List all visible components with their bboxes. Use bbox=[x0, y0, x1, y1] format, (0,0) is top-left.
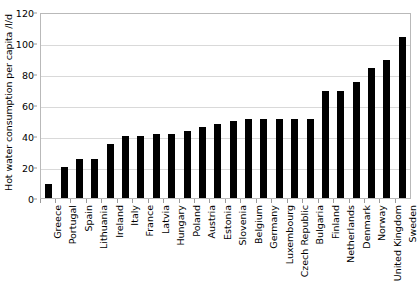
bar bbox=[260, 119, 267, 198]
bar bbox=[337, 91, 344, 198]
x-axis-label-slot: Norway bbox=[365, 203, 380, 285]
x-axis-label-slot: Denmark bbox=[349, 203, 364, 285]
x-axis-label-slot: Belgium bbox=[241, 203, 256, 285]
x-axis-label-slot: Sweden bbox=[395, 203, 410, 285]
x-axis-label-slot: Bulgaria bbox=[303, 203, 318, 285]
bar-slot bbox=[41, 14, 56, 198]
y-axis-tick-label: 100 bbox=[16, 39, 34, 50]
x-axis-label-slot: Portugal bbox=[55, 203, 70, 285]
bar-slot bbox=[302, 14, 317, 198]
bar-slot bbox=[164, 14, 179, 198]
bar bbox=[307, 119, 314, 198]
x-axis-label-slot: Spain bbox=[71, 203, 86, 285]
plot-area bbox=[40, 13, 411, 199]
bar-slot bbox=[87, 14, 102, 198]
bar-slot bbox=[133, 14, 148, 198]
bar-slot bbox=[364, 14, 379, 198]
x-axis-label-slot: Austria bbox=[195, 203, 210, 285]
x-axis-label-slot: Latvia bbox=[148, 203, 163, 285]
bar bbox=[214, 124, 221, 198]
y-axis-tick-label: 120 bbox=[16, 8, 34, 19]
x-axis-label-slot: Netherlands bbox=[334, 203, 349, 285]
bar bbox=[153, 134, 160, 198]
x-axis-label-slot: United Kingdom bbox=[380, 203, 395, 285]
bar bbox=[399, 37, 406, 198]
y-axis-tick-mark bbox=[34, 75, 37, 76]
bar bbox=[322, 91, 329, 198]
y-axis-tick-label: 60 bbox=[22, 101, 34, 112]
bar-slot bbox=[241, 14, 256, 198]
x-axis-tick-label: Sweden bbox=[407, 205, 418, 243]
y-axis-tick-mark bbox=[34, 137, 37, 138]
bar-slot bbox=[118, 14, 133, 198]
y-axis-tick-mark bbox=[34, 168, 37, 169]
x-axis-label-slot: France bbox=[133, 203, 148, 285]
y-axis-tick-label: 20 bbox=[22, 163, 34, 174]
bar bbox=[184, 131, 191, 198]
bar-slot bbox=[195, 14, 210, 198]
bar bbox=[91, 159, 98, 198]
x-axis-label-slot: Germany bbox=[256, 203, 271, 285]
bar bbox=[61, 167, 68, 198]
bar-slot bbox=[179, 14, 194, 198]
y-axis-tick-label: 40 bbox=[22, 132, 34, 143]
y-axis-tick-labels: 020406080100120 bbox=[15, 0, 37, 205]
bar-slot bbox=[287, 14, 302, 198]
bar-slot bbox=[226, 14, 241, 198]
x-axis-label-slot: Czech Republic bbox=[287, 203, 302, 285]
bar-slot bbox=[103, 14, 118, 198]
y-axis-tick-mark bbox=[34, 13, 37, 14]
x-axis-label-slot: Poland bbox=[179, 203, 194, 285]
bar-slot bbox=[72, 14, 87, 198]
x-axis-label-slot: Greece bbox=[40, 203, 55, 285]
y-axis-tick-mark bbox=[34, 199, 37, 200]
bar bbox=[291, 119, 298, 198]
y-axis-title: Hot water consumption per capita /l/d bbox=[0, 0, 16, 205]
x-axis-label-slot: Estonia bbox=[210, 203, 225, 285]
y-axis-title-text: Hot water consumption per capita /l/d bbox=[3, 14, 14, 191]
bar bbox=[107, 144, 114, 198]
bar bbox=[276, 119, 283, 198]
x-axis-label-slot: Italy bbox=[117, 203, 132, 285]
bar-slot bbox=[333, 14, 348, 198]
x-axis-label-slot: Luxembourg bbox=[272, 203, 287, 285]
bar bbox=[368, 68, 375, 198]
y-axis-tick-mark bbox=[34, 106, 37, 107]
bar-slot bbox=[349, 14, 364, 198]
y-axis-tick-label: 80 bbox=[22, 70, 34, 81]
bar-slot bbox=[149, 14, 164, 198]
bar-series bbox=[41, 14, 410, 198]
bar bbox=[245, 119, 252, 198]
x-axis-label-slot: Hungary bbox=[164, 203, 179, 285]
x-axis-label-slot: Ireland bbox=[102, 203, 117, 285]
bar bbox=[199, 127, 206, 198]
bar-slot bbox=[318, 14, 333, 198]
bar-slot bbox=[256, 14, 271, 198]
bar bbox=[230, 121, 237, 199]
bar bbox=[137, 136, 144, 198]
bar bbox=[76, 159, 83, 198]
bar-slot bbox=[272, 14, 287, 198]
bar-slot bbox=[210, 14, 225, 198]
y-axis-tick-mark bbox=[34, 44, 37, 45]
x-axis-label-slot: Slovenia bbox=[225, 203, 240, 285]
bar-slot bbox=[379, 14, 394, 198]
bar-slot bbox=[56, 14, 71, 198]
bar bbox=[168, 134, 175, 198]
x-axis-label-slot: Finland bbox=[318, 203, 333, 285]
bar bbox=[383, 60, 390, 198]
bar-slot bbox=[395, 14, 410, 198]
bar bbox=[353, 82, 360, 198]
bar bbox=[45, 184, 52, 198]
x-axis-label-slot: Lithuania bbox=[86, 203, 101, 285]
x-axis-tick-labels: GreecePortugalSpainLithuaniaIrelandItaly… bbox=[40, 203, 411, 285]
bar bbox=[122, 136, 129, 198]
